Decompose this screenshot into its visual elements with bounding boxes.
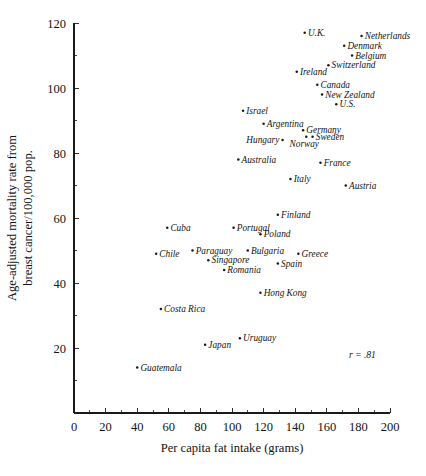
data-point-marker [311, 136, 314, 139]
data-point-marker [327, 64, 330, 67]
x-tick-label: 40 [131, 420, 144, 434]
data-point-label: Netherlands [364, 31, 411, 41]
data-point-marker [155, 253, 158, 256]
data-point-marker [281, 139, 284, 142]
data-point-label: U.S. [339, 99, 355, 109]
data-point-label: Norway [289, 139, 320, 149]
data-point-marker [191, 249, 194, 252]
data-point-label: France [323, 158, 351, 168]
data-point-marker [297, 253, 300, 256]
data-point-label: Italy [293, 174, 312, 184]
data-point: France [319, 158, 350, 168]
data-point-marker [302, 129, 305, 132]
y-tick-label: 60 [54, 212, 67, 226]
data-point-marker [166, 227, 169, 230]
data-point-marker [223, 269, 226, 272]
data-point-label: Guatemala [140, 363, 182, 373]
data-point-label: Spain [281, 259, 303, 269]
data-point-marker [345, 184, 348, 187]
data-point-label: New Zealand [324, 90, 375, 100]
plot-area: 020406080100120140160180200 204060801001… [0, 0, 426, 476]
x-tick-label: 60 [163, 420, 176, 434]
data-point-marker [343, 45, 346, 48]
data-point: Austria [345, 181, 377, 191]
data-point-label: Japan [208, 340, 231, 350]
data-point: Paraguay [191, 246, 233, 256]
data-point-label: Canada [321, 80, 351, 90]
data-points-group: U.K.NetherlandsDenmarkBelgiumSwitzerland… [136, 28, 411, 373]
data-point-label: Romania [226, 265, 261, 275]
data-point-marker [262, 123, 265, 126]
data-point: Italy [289, 174, 311, 184]
data-point: Belgium [351, 51, 387, 61]
y-axis-title-line-1: Age-adjusted mortality rate from [5, 135, 19, 301]
data-point-marker [319, 162, 322, 165]
data-point-label: U.K. [308, 28, 326, 38]
data-point-label: Austria [348, 181, 377, 191]
data-point-marker [316, 84, 319, 87]
data-point-marker [305, 136, 308, 139]
data-point-label: Uruguay [243, 333, 277, 343]
data-point: Uruguay [239, 333, 277, 343]
data-point: New Zealand [321, 90, 375, 100]
data-point-marker [160, 308, 163, 311]
x-tick-label: 0 [71, 420, 77, 434]
data-point: Argentina [262, 119, 304, 129]
data-point-label: Australia [241, 155, 277, 165]
data-point: Costa Rica [160, 304, 206, 314]
y-tick-label: 40 [54, 277, 67, 291]
data-point-label: Bulgaria [251, 246, 284, 256]
data-point-label: Cuba [170, 223, 190, 233]
data-point-marker [239, 337, 242, 340]
x-tick-label: 140 [286, 420, 305, 434]
y-axis-tick-labels: 20406080100120 [47, 17, 66, 356]
data-point-label: Denmark [346, 41, 382, 51]
y-tick-label: 80 [54, 147, 67, 161]
data-point-marker [303, 32, 306, 35]
y-axis-title-line-2: breast cancer/100,000 pop. [21, 150, 35, 286]
y-tick-label: 120 [47, 17, 66, 31]
data-point-marker [335, 103, 338, 106]
data-point-label: Belgium [355, 51, 386, 61]
data-point: Hong Kong [259, 288, 307, 298]
data-point: Switzerland [327, 60, 376, 70]
data-point-marker [259, 292, 262, 295]
scatter-chart: 020406080100120140160180200 204060801001… [0, 0, 426, 476]
data-point-marker [136, 366, 139, 369]
data-point: U.K. [303, 28, 325, 38]
data-point-label: Sweden [316, 132, 345, 142]
data-point: Denmark [343, 41, 383, 51]
y-tick-label: 20 [54, 342, 67, 356]
data-point-marker [242, 110, 245, 113]
data-point-label: Greece [302, 249, 329, 259]
data-point: Romania [223, 265, 261, 275]
data-point: Cuba [166, 223, 191, 233]
x-tick-label: 120 [254, 420, 273, 434]
data-point-marker [360, 35, 363, 38]
y-axis-ticks [74, 23, 79, 381]
x-axis-title: Per capita fat intake (grams) [161, 441, 304, 455]
data-point-label: Chile [159, 249, 179, 259]
data-point-marker [237, 158, 240, 161]
data-point-marker [277, 262, 280, 265]
x-axis-tick-labels: 020406080100120140160180200 [71, 420, 400, 434]
data-point-marker [351, 54, 354, 57]
x-tick-label: 180 [349, 420, 368, 434]
x-tick-label: 80 [194, 420, 207, 434]
data-point-marker [232, 227, 235, 230]
data-point: Netherlands [360, 31, 410, 41]
data-point-marker [277, 214, 280, 217]
data-point: Guatemala [136, 363, 182, 373]
data-point-marker [207, 259, 210, 262]
data-point-label: Costa Rica [164, 304, 205, 314]
x-tick-label: 160 [317, 420, 336, 434]
data-point: Chile [155, 249, 180, 259]
data-point: Ireland [296, 67, 328, 77]
data-point: Israel [242, 106, 269, 116]
data-point-label: Finland [280, 210, 311, 220]
data-point: Bulgaria [247, 246, 285, 256]
x-tick-label: 20 [99, 420, 112, 434]
data-point-marker [247, 249, 250, 252]
data-point: Australia [237, 155, 276, 165]
data-point-marker [321, 93, 324, 96]
